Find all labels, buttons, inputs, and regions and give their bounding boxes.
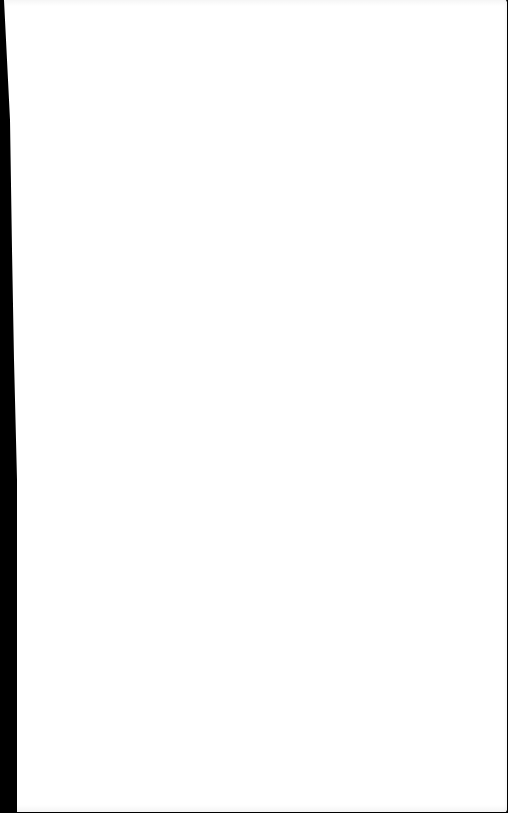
blank-paper-sheet — [0, 0, 508, 813]
page-content — [0, 0, 508, 813]
photo-scene — [0, 0, 508, 813]
